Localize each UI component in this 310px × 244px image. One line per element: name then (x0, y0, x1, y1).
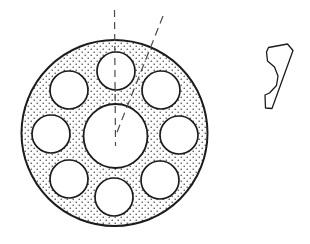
bolt-hole (95, 178, 133, 216)
drawing-svg (0, 0, 310, 244)
technical-drawing-canvas (0, 0, 310, 244)
bolt-hole (160, 116, 198, 154)
bolt-hole (50, 160, 88, 198)
bolt-hole (50, 71, 88, 109)
bolt-hole (32, 115, 70, 153)
bolt-hole (97, 52, 135, 90)
bolt-hole (141, 161, 179, 199)
disc-group (0, 0, 310, 244)
bolt-hole (142, 71, 180, 109)
